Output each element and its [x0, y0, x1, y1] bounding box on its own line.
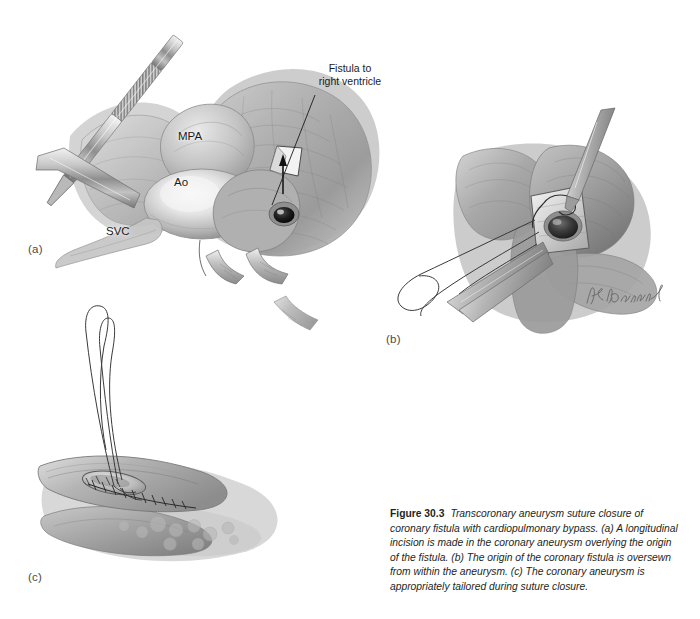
callout-fistula-to-right-ventricle: Fistula to right ventricle [300, 62, 400, 88]
figure-page: MPA Ao SVC Fistula to right ventricle (a… [0, 0, 700, 619]
panel-a-illustration [30, 18, 390, 283]
panel-label-a: (a) [28, 243, 43, 255]
figure-number: Figure 30.3 [390, 508, 444, 519]
artist-signature [583, 283, 669, 309]
fistula-orifice [269, 202, 299, 226]
fistula-orifice-b [544, 211, 582, 241]
figure-caption: Figure 30.3Transcoronary aneurysm suture… [390, 507, 678, 595]
cannula-fragment [274, 296, 318, 330]
panel-label-c: (c) [28, 571, 42, 583]
panel-label-b: (b) [386, 333, 401, 345]
figure-caption-text: Transcoronary aneurysm suture closure of… [390, 508, 678, 592]
panel-c-illustration [38, 300, 338, 590]
